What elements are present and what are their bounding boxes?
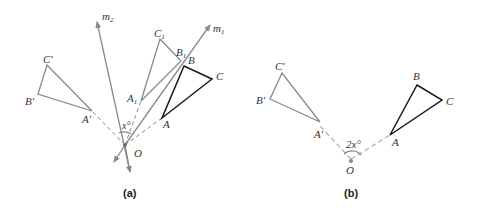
rotation-diagram: m2 m1 C1 B1 A1 B C A C′ B′ A′ O x° (a) C…	[0, 0, 479, 213]
label-m1: m1	[213, 22, 224, 36]
triangle-AprimeBprimeCprime	[38, 65, 92, 111]
label-Aprime: A′	[313, 128, 324, 140]
label-angle-x: x°	[121, 120, 130, 131]
label-C: C	[216, 70, 224, 82]
point-O	[123, 143, 127, 147]
label-B: B	[413, 70, 420, 82]
label-Bprime: B′	[25, 95, 35, 107]
triangle-ABC	[162, 66, 212, 118]
triangle-AprimeBprimeCprime	[270, 73, 320, 122]
caption-b: (b)	[344, 187, 358, 199]
label-C: C	[446, 95, 454, 107]
triangle-A1B1C1	[141, 39, 181, 101]
label-Cprime: C′	[275, 60, 285, 72]
label-Aprime: A′	[81, 113, 92, 125]
panel-b: C′ B′ A′ B C A O 2x° (b)	[256, 60, 454, 199]
label-Bprime: B′	[256, 94, 266, 106]
label-B: B	[188, 54, 195, 66]
label-C1: C1	[154, 27, 165, 41]
caption-a: (a)	[123, 187, 137, 199]
angle-arc-x	[119, 132, 131, 134]
label-A1: A1	[126, 92, 137, 106]
ray-O-A	[125, 118, 162, 145]
line-m2	[97, 22, 130, 172]
label-B1: B1	[176, 46, 186, 60]
label-O: O	[346, 164, 354, 176]
label-Cprime: C′	[43, 53, 53, 65]
panel-a: m2 m1 C1 B1 A1 B C A C′ B′ A′ O x° (a)	[25, 10, 224, 199]
label-O: O	[134, 147, 142, 159]
label-A: A	[162, 118, 170, 130]
triangle-ABC	[390, 85, 442, 135]
line-m2-tail	[125, 145, 130, 172]
point-O	[349, 159, 353, 163]
label-m2: m2	[102, 10, 114, 24]
label-A: A	[391, 136, 399, 148]
line-m1-tail	[114, 145, 125, 162]
label-angle-2x: 2x°	[346, 138, 361, 150]
